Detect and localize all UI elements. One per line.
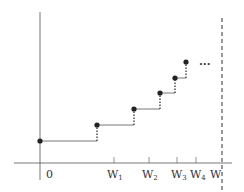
step-diagram: ... 0 W1 W2 W3 W4 W [0,0,244,192]
origin-label: 0 [46,168,53,181]
continuation-ellipsis: ... [199,55,211,68]
jump-segments [97,62,186,141]
x-ticks [114,157,196,163]
label-w4: W4 [190,168,206,182]
label-w: W [210,168,222,181]
label-w3: W3 [171,168,187,182]
label-w2: W2 [142,168,158,182]
label-w1: W1 [107,168,123,182]
step-points [37,59,188,143]
step-segments [40,78,186,141]
